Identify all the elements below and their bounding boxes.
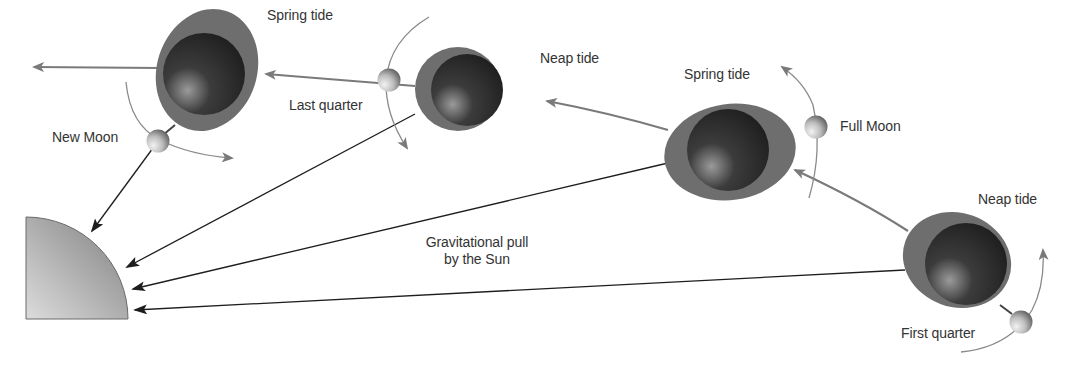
- tide-diagram: [0, 0, 1072, 370]
- earth-neap-tide-first-quarter: [889, 197, 1025, 323]
- moon-full-moon-icon: [805, 116, 828, 139]
- gravity-label-line-2: by the Sun: [400, 251, 554, 268]
- label-gravitational-pull: Gravitational pull by the Sun: [400, 234, 554, 268]
- earth-spring-tide-full-moon: [658, 95, 802, 208]
- label-spring-tide-new-moon: Spring tide: [267, 7, 333, 23]
- label-neap-tide-first-quarter: Neap tide: [978, 191, 1037, 207]
- moon-first-quarter-icon: [1010, 311, 1033, 334]
- sun-quarter-disc-icon: [26, 217, 128, 319]
- moon-new-moon-icon: [147, 130, 170, 153]
- label-spring-tide-full-moon: Spring tide: [684, 66, 750, 82]
- label-new-moon: New Moon: [52, 129, 118, 145]
- label-last-quarter: Last quarter: [289, 97, 363, 113]
- moon-last-quarter-icon: [378, 69, 401, 92]
- label-full-moon: Full Moon: [840, 118, 901, 134]
- earth-spring-tide-new-moon: [140, 0, 273, 144]
- earth-neap-tide-last-quarter: [415, 47, 503, 131]
- label-first-quarter: First quarter: [901, 325, 975, 341]
- moon-orbit-arcs: [126, 17, 1043, 352]
- label-neap-tide-last-quarter: Neap tide: [540, 50, 599, 66]
- gravity-label-line-1: Gravitational pull: [400, 234, 554, 251]
